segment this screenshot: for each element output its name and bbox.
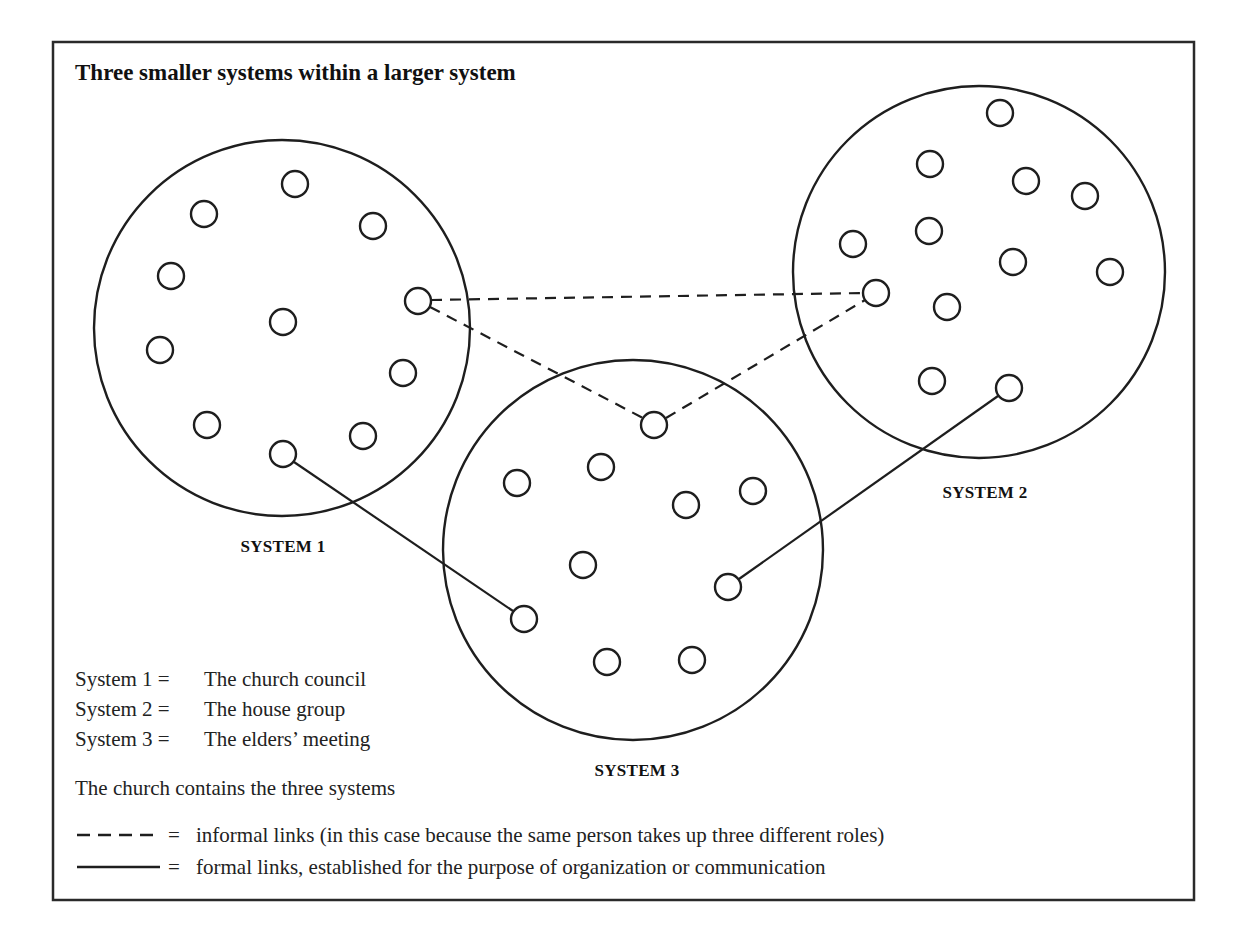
system-definitions: System 1 = The church council System 2 =… [75, 667, 371, 751]
member-node [916, 218, 942, 244]
member-node [594, 649, 620, 675]
formal-link-s1-s3 [294, 462, 513, 611]
member-node [158, 263, 184, 289]
member-node [194, 412, 220, 438]
member-node [360, 213, 386, 239]
member-node-formal-link [996, 375, 1022, 401]
member-node [191, 201, 217, 227]
informal-links [430, 293, 865, 418]
system-2-members [840, 100, 1123, 401]
member-node-formal-link [715, 574, 741, 600]
definition-value: The elders’ meeting [204, 727, 371, 751]
member-node-shared-role [641, 412, 667, 438]
member-node [147, 337, 173, 363]
member-node [679, 647, 705, 673]
legend-equals: = [168, 855, 180, 879]
member-node [350, 423, 376, 449]
system-3-label: SYSTEM 3 [594, 761, 679, 780]
member-node [840, 231, 866, 257]
informal-link-description: informal links (in this case because the… [196, 823, 884, 847]
definition-term: System 1 = [75, 667, 170, 691]
member-node-shared-role [863, 280, 889, 306]
system-1-members [147, 171, 431, 467]
containment-note: The church contains the three systems [75, 776, 395, 800]
member-node [1097, 259, 1123, 285]
member-node [282, 171, 308, 197]
system-boundaries [94, 86, 1165, 740]
legend-equals: = [168, 823, 180, 847]
definition-term: System 2 = [75, 697, 170, 721]
system-2-label: SYSTEM 2 [942, 483, 1027, 502]
member-node [1000, 249, 1026, 275]
link-legend: = informal links (in this case because t… [77, 823, 884, 879]
systems-diagram: Three smaller systems within a larger sy… [0, 0, 1246, 951]
informal-link-s1-s2 [431, 293, 863, 300]
formal-link-description: formal links, established for the purpos… [196, 855, 826, 879]
member-node [504, 470, 530, 496]
informal-link-s3-s2 [666, 300, 865, 418]
informal-link-s1-s3 [430, 307, 643, 418]
definition-term: System 3 = [75, 727, 170, 751]
member-node [1072, 183, 1098, 209]
system-3-boundary [443, 360, 823, 740]
member-node [1013, 168, 1039, 194]
member-node [934, 294, 960, 320]
member-node [919, 368, 945, 394]
member-node [570, 552, 596, 578]
member-node [588, 454, 614, 480]
system-1-label: SYSTEM 1 [240, 537, 325, 556]
diagram-title: Three smaller systems within a larger sy… [75, 60, 516, 85]
member-node-formal-link [511, 606, 537, 632]
definition-value: The house group [204, 697, 345, 721]
definition-value: The church council [204, 667, 366, 691]
member-node-formal-link [270, 441, 296, 467]
member-node-shared-role [405, 288, 431, 314]
member-node [390, 360, 416, 386]
member-node [270, 309, 296, 335]
member-node [673, 492, 699, 518]
member-node [987, 100, 1013, 126]
member-node [917, 151, 943, 177]
member-node [740, 478, 766, 504]
system-3-members [504, 412, 766, 675]
